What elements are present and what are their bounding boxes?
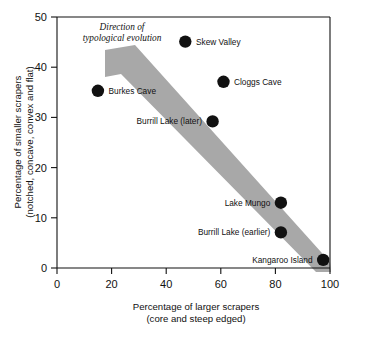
x-axis-title: Percentage of larger scrapers (core and …: [133, 301, 260, 324]
data-point-label: Burkes Cave: [109, 86, 157, 96]
data-point[interactable]: [92, 85, 104, 97]
y-axis-title-line-1: Percentage of smaller scrapers: [12, 75, 23, 208]
x-axis-title-line-1: Percentage of larger scrapers: [133, 301, 260, 312]
y-axis-title-line-2: (notched, concave, convex and flat): [24, 66, 35, 217]
y-axis-ticks: 0 10 20 30 40 50: [35, 11, 57, 274]
figure-container: 0 10 20 30 40 50 0 20 40 60 80 100 Direc…: [0, 0, 367, 339]
y-tick-label: 40: [35, 61, 47, 73]
y-tick-label: 0: [41, 262, 47, 274]
data-point-label: Kangaroo Island: [252, 255, 313, 265]
x-tick-label: 80: [269, 278, 281, 290]
data-point-label: Burrill Lake (later): [137, 116, 203, 126]
data-point[interactable]: [317, 254, 329, 266]
x-tick-label: 40: [160, 278, 172, 290]
y-tick-label: 10: [35, 212, 47, 224]
x-tick-label: 20: [105, 278, 117, 290]
data-point-label: Skew Valley: [196, 37, 241, 47]
x-axis-ticks: 0 20 40 60 80 100: [54, 268, 339, 290]
y-axis-title: Percentage of smaller scrapers (notched,…: [12, 66, 35, 217]
data-point-label: Burrill Lake (earlier): [198, 227, 271, 237]
data-point[interactable]: [275, 197, 287, 209]
scatter-plot: 0 10 20 30 40 50 0 20 40 60 80 100 Direc…: [0, 0, 367, 339]
annotation-line-1: Direction of: [99, 22, 146, 32]
data-point[interactable]: [217, 76, 229, 88]
data-point[interactable]: [206, 115, 218, 127]
y-tick-label: 30: [35, 111, 47, 123]
data-point-label: Cloggs Cave: [234, 77, 282, 87]
x-tick-label: 60: [215, 278, 227, 290]
x-tick-label: 100: [321, 278, 339, 290]
x-tick-label: 0: [54, 278, 60, 290]
data-point[interactable]: [275, 226, 287, 238]
annotation-line-2: typological evolution: [83, 33, 162, 43]
x-axis-title-line-2: (core and steep edged): [146, 313, 245, 324]
data-point[interactable]: [179, 35, 191, 47]
y-tick-label: 50: [35, 11, 47, 23]
direction-annotation: Direction of typological evolution: [83, 22, 162, 43]
data-point-label: Lake Mungo: [225, 198, 271, 208]
y-tick-label: 20: [35, 162, 47, 174]
